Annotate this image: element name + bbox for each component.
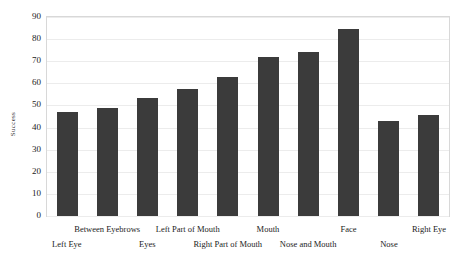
x-tick-label: Left Eye <box>52 240 82 249</box>
bar <box>177 89 198 216</box>
x-tick-label: Nose and Mouth <box>280 240 337 249</box>
bar <box>137 98 158 216</box>
x-axis-tick-labels: Left EyeBetween EyebrowsEyesLeft Part of… <box>0 218 467 270</box>
bar <box>217 77 238 216</box>
bar-chart: Success 0102030405060708090 Left EyeBetw… <box>0 0 467 270</box>
y-tick-label-20: 20 <box>0 167 41 176</box>
y-tick-label-30: 30 <box>0 145 41 154</box>
x-tick-label: Right Part of Mouth <box>193 240 262 249</box>
bar <box>378 121 399 216</box>
bar <box>418 115 439 216</box>
x-tick-label: Between Eyebrows <box>74 225 140 234</box>
y-tick-label-80: 80 <box>0 34 41 43</box>
y-tick-label-90: 90 <box>0 12 41 21</box>
x-tick-label: Left Part of Mouth <box>156 225 220 234</box>
x-tick-label: Eyes <box>139 240 156 249</box>
x-tick-label: Face <box>341 225 357 234</box>
gridline-0 <box>47 216 449 217</box>
y-tick-label-50: 50 <box>0 100 41 109</box>
y-tick-label-40: 40 <box>0 123 41 132</box>
bar <box>57 112 78 216</box>
y-tick-label-70: 70 <box>0 56 41 65</box>
x-tick-label: Right Eye <box>412 225 446 234</box>
y-tick-label-60: 60 <box>0 78 41 87</box>
x-tick-label: Nose <box>380 240 397 249</box>
bars-container <box>47 17 449 216</box>
bar <box>338 29 359 216</box>
bar <box>298 52 319 216</box>
bar <box>97 108 118 216</box>
bar <box>258 57 279 216</box>
y-tick-label-10: 10 <box>0 189 41 198</box>
x-tick-label: Mouth <box>257 225 280 234</box>
